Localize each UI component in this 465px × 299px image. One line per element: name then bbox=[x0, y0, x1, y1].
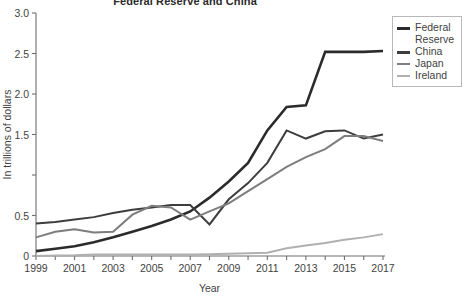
legend-swatch-icon bbox=[397, 63, 410, 65]
y-axis-title: In trillions of dollars bbox=[1, 90, 13, 180]
legend-item[interactable]: Federal Reserve bbox=[397, 21, 458, 45]
series-line-japan bbox=[36, 136, 383, 237]
x-axis-tick-label: 2007 bbox=[179, 262, 203, 274]
x-axis-tick-label: 2005 bbox=[140, 262, 164, 274]
x-axis-tick-label: 2011 bbox=[256, 262, 279, 274]
x-axis-tick-label: 2009 bbox=[217, 262, 241, 274]
legend-item-label: China bbox=[415, 45, 442, 57]
x-axis-tick-label: 2015 bbox=[333, 262, 357, 274]
axis-labels-layer: 02.03.00.51.52.5199920012003200520072009… bbox=[1, 7, 395, 294]
legend-item-label: Ireland bbox=[415, 69, 447, 81]
x-axis-tick-label: 2001 bbox=[63, 262, 87, 274]
x-axis-tick-label: 2017 bbox=[371, 262, 395, 274]
legend-item[interactable]: Japan bbox=[397, 57, 458, 69]
legend-item-label: Japan bbox=[415, 57, 444, 69]
x-axis-tick-label: 1999 bbox=[24, 262, 48, 274]
legend-item[interactable]: China bbox=[397, 45, 458, 57]
legend-swatch-icon bbox=[397, 51, 410, 54]
x-axis-tick-label: 2013 bbox=[294, 262, 318, 274]
legend-item[interactable]: Ireland bbox=[397, 69, 458, 81]
legend-item-label: Federal Reserve bbox=[415, 21, 458, 45]
x-axis-title: Year bbox=[199, 282, 221, 294]
y-axis-tick-label: 2.0 bbox=[14, 88, 29, 100]
legend-swatch-icon bbox=[397, 75, 410, 77]
series-line-federal-reserve bbox=[36, 51, 383, 251]
y-axis-tick-label: 0 bbox=[23, 250, 29, 262]
line-chart: Federal Reserve and China 02.03.00.51.52… bbox=[0, 0, 465, 299]
x-axis-tick-label: 2003 bbox=[101, 262, 125, 274]
series-layer bbox=[36, 51, 383, 256]
y-axis-tick-label: 2.5 bbox=[14, 48, 29, 60]
legend-swatch-icon bbox=[397, 27, 410, 30]
y-axis-tick-label: 0.5 bbox=[14, 210, 29, 222]
y-axis-tick-label: 1.5 bbox=[14, 129, 29, 141]
series-line-ireland bbox=[36, 234, 383, 256]
chart-legend: Federal ReserveChinaJapanIreland bbox=[392, 16, 462, 87]
y-axis-tick-label: 3.0 bbox=[14, 7, 29, 19]
